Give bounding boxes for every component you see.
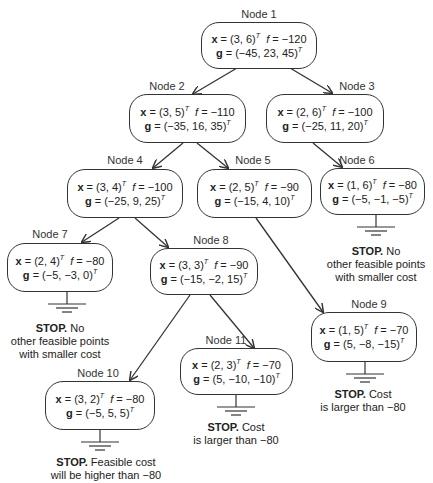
node-label: Node 8 [193, 234, 228, 246]
node-gradient: g = (−5, 5, 5)T [66, 406, 134, 420]
tree-node-8: x = (3, 3)T f = −90g = (−15, −2, 15)T [150, 248, 258, 295]
edge-2-to-5 [197, 143, 228, 168]
stop-annotation-node-7: STOP. Noother feasible pointswith smalle… [11, 322, 109, 361]
tree-node-4: x = (3, 4)T f = −100g = (−25, 9, 25)T [67, 169, 183, 218]
node-x-and-cost: x = (2, 3)T f = −70 [192, 358, 281, 372]
edge-1-to-3 [290, 68, 332, 93]
node-x-and-cost: x = (1, 5)T f = −70 [319, 323, 408, 337]
ground-icon [81, 430, 119, 450]
node-x-and-cost: x = (3, 5)T f = −110 [140, 105, 234, 119]
stop-keyword: STOP. [56, 456, 87, 468]
stop-annotation-node-9: STOP. Costis larger than −80 [320, 388, 405, 414]
ground-icon [357, 215, 395, 235]
node-gradient: g = (−25, 11, 20)T [282, 119, 367, 133]
tree-node-2: x = (3, 5)T f = −110g = (−35, 16, 35)T [129, 94, 246, 143]
tree-node-7: x = (2, 4)T f = −80g = (−5, −3, 0)T [7, 243, 113, 292]
node-x-and-cost: x = (3, 4)T f = −100 [77, 180, 172, 194]
stop-keyword: STOP. [36, 322, 67, 334]
node-label: Node 4 [107, 154, 142, 166]
tree-node-3: x = (2, 6)T f = −100g = (−25, 11, 20)T [266, 94, 384, 143]
tree-node-1: x = (3, 6)T f = −120g = (−45, 23, 45)T [201, 22, 317, 69]
node-label: Node 7 [32, 228, 67, 240]
node-x-and-cost: x = (2, 6)T f = −100 [277, 105, 372, 119]
node-x-and-cost: x = (1, 6)T f = −80 [328, 178, 417, 192]
node-x-and-cost: x = (2, 5)T f = −90 [210, 180, 299, 194]
stop-annotation-node-6: STOP. Noother feasible pointswith smalle… [327, 245, 425, 284]
node-label: Node 10 [77, 367, 119, 379]
ground-icon [48, 292, 86, 312]
edge-1-to-2 [193, 68, 237, 94]
node-gradient: g = (−5, −3, 0)T [23, 268, 97, 282]
node-label: Node 3 [339, 80, 374, 92]
tree-node-11: x = (2, 3)T f = −70g = (5, −10, −10)T [180, 348, 293, 395]
node-gradient: g = (−15, 4, 10)T [214, 194, 294, 208]
node-x-and-cost: x = (2, 4)T f = −80 [15, 254, 104, 268]
ground-icon [217, 395, 255, 415]
tree-node-9: x = (1, 5)T f = −70g = (5, −8, −15)T [311, 312, 417, 362]
stop-keyword: STOP. [352, 245, 383, 257]
node-gradient: g = (−45, 23, 45)T [216, 46, 302, 60]
node-gradient: g = (5, −8, −15)T [324, 337, 404, 351]
node-label: Node 9 [351, 298, 386, 310]
node-x-and-cost: x = (3, 6)T f = −120 [211, 32, 306, 46]
node-gradient: g = (−15, −2, 15)T [161, 272, 248, 286]
stop-keyword: STOP. [334, 388, 365, 400]
node-gradient: g = (5, −10, −10)T [193, 372, 280, 386]
node-x-and-cost: x = (3, 3)T f = −90 [159, 258, 248, 272]
edge-5-to-9 [256, 218, 323, 312]
edge-4-to-7 [82, 218, 119, 242]
node-gradient: g = (−5, −1, −5)T [332, 192, 413, 206]
stop-annotation-node-10: STOP. Feasible costwill be higher than −… [51, 456, 161, 482]
node-label: Node 6 [339, 154, 374, 166]
node-label: Node 2 [149, 80, 184, 92]
node-label: Node 5 [235, 154, 270, 166]
ground-icon [346, 362, 384, 382]
edge-3-to-6 [313, 143, 342, 167]
tree-node-6: x = (1, 6)T f = −80g = (−5, −1, −5)T [320, 168, 425, 215]
node-label: Node 11 [206, 334, 247, 346]
node-gradient: g = (−35, 16, 35)T [144, 119, 230, 133]
node-x-and-cost: x = (3, 2)T f = −80 [55, 392, 144, 406]
edge-4-to-8 [135, 218, 168, 247]
stop-keyword: STOP. [207, 421, 238, 433]
node-gradient: g = (−25, 9, 25)T [85, 194, 165, 208]
node-label: Node 1 [241, 8, 276, 20]
stop-annotation-node-11: STOP. Costis larger than −80 [193, 421, 278, 447]
edge-2-to-4 [153, 143, 183, 168]
tree-node-5: x = (2, 5)T f = −90g = (−15, 4, 10)T [197, 169, 312, 218]
tree-node-10: x = (3, 2)T f = −80g = (−5, 5, 5)T [45, 381, 155, 430]
